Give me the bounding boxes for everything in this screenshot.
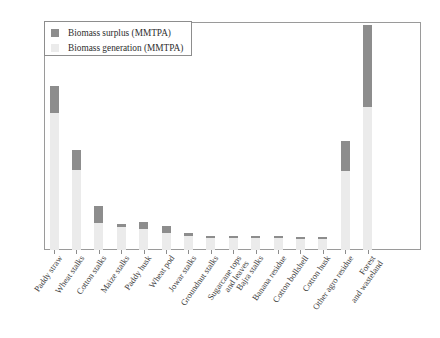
bar-column	[251, 236, 260, 250]
bar-segment-surplus	[341, 141, 350, 170]
y-axis: 050100150200250	[0, 0, 44, 272]
bar-column	[117, 224, 126, 250]
legend-swatch-generation-icon	[51, 44, 59, 52]
bar-segment-surplus	[72, 150, 81, 170]
bar-column	[162, 226, 171, 250]
bar-segment-generation	[296, 239, 305, 250]
bar-segment-surplus	[94, 206, 103, 222]
bar-segment-surplus	[139, 222, 148, 229]
legend-item-surplus: Biomass surplus (MMTPA)	[51, 26, 185, 39]
bar-series-container	[44, 22, 421, 250]
bar-column	[341, 141, 350, 250]
bar-segment-surplus	[184, 233, 193, 237]
bar-column	[363, 25, 372, 250]
bar-column	[206, 236, 215, 250]
legend-swatch-surplus-icon	[51, 29, 59, 37]
bar-segment-generation	[251, 238, 260, 250]
bar-segment-generation	[72, 170, 81, 250]
bar-segment-generation	[274, 238, 283, 250]
bar-column	[50, 86, 59, 250]
bar-segment-surplus	[296, 237, 305, 239]
bar-column	[229, 236, 238, 250]
bar-segment-surplus	[50, 86, 59, 113]
bar-column	[139, 222, 148, 250]
bar-segment-surplus	[229, 236, 238, 238]
legend-item-generation: Biomass generation (MMTPA)	[51, 41, 185, 54]
biomass-bar-chart: 050100150200250 Paddy strawWheat stalksC…	[0, 0, 440, 338]
bar-column	[274, 236, 283, 250]
bar-segment-generation	[318, 239, 327, 250]
legend-label-surplus: Biomass surplus (MMTPA)	[68, 28, 171, 38]
bar-segment-generation	[139, 229, 148, 250]
bar-segment-generation	[162, 233, 171, 250]
bar-column	[94, 206, 103, 250]
bar-segment-surplus	[318, 237, 327, 239]
bar-segment-generation	[341, 171, 350, 250]
bar-segment-surplus	[363, 25, 372, 107]
bar-segment-surplus	[162, 226, 171, 232]
bar-segment-surplus	[251, 236, 260, 238]
bar-column	[184, 233, 193, 250]
bar-segment-generation	[50, 113, 59, 250]
bar-segment-generation	[94, 223, 103, 250]
legend-label-generation: Biomass generation (MMTPA)	[68, 43, 183, 53]
bar-segment-surplus	[117, 224, 126, 227]
bar-segment-generation	[229, 238, 238, 250]
bar-segment-generation	[363, 107, 372, 250]
bar-segment-generation	[184, 236, 193, 250]
bar-segment-surplus	[274, 236, 283, 238]
bar-column	[296, 237, 305, 250]
bar-segment-surplus	[206, 236, 215, 238]
bar-segment-generation	[117, 227, 126, 250]
x-axis-labels: Paddy strawWheat stalksCotton stalksMaiz…	[0, 250, 440, 338]
bar-segment-generation	[206, 238, 215, 250]
chart-legend: Biomass surplus (MMTPA) Biomass generati…	[44, 21, 192, 56]
bar-column	[72, 150, 81, 250]
bar-column	[318, 237, 327, 250]
